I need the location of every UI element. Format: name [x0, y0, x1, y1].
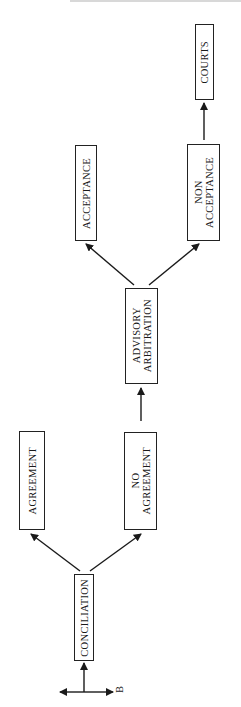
node-label: NO AGREEMENT — [130, 447, 152, 514]
node-label: COURTS — [199, 41, 210, 84]
node-label: ADVISORY ARBITRATION — [131, 299, 153, 372]
arrow-conciliation-to-agreement — [31, 534, 80, 571]
arrow-conciliation-to-no-agreement — [90, 534, 141, 571]
connector-arrows — [0, 0, 241, 707]
node-acceptance: ACCEPTANCE — [75, 145, 97, 241]
node-label: NON ACCEPTANCE — [193, 157, 215, 228]
node-non-acceptance: NON ACCEPTANCE — [187, 144, 220, 241]
node-conciliation: CONCILIATION — [74, 574, 94, 661]
node-no-agreement: NO AGREEMENT — [124, 432, 157, 530]
arrow-arbitration-to-acceptance — [86, 244, 134, 285]
node-label: CONCILIATION — [79, 579, 90, 657]
node-label: AGREEMENT — [27, 447, 38, 514]
node-advisory-arbitration: ADVISORY ARBITRATION — [125, 288, 158, 384]
entry-marker-label: B — [114, 686, 125, 693]
arrow-arbitration-to-non-acceptance — [149, 244, 199, 285]
node-agreement: AGREEMENT — [19, 431, 45, 530]
node-label: ACCEPTANCE — [81, 158, 92, 229]
node-courts: COURTS — [195, 24, 214, 100]
